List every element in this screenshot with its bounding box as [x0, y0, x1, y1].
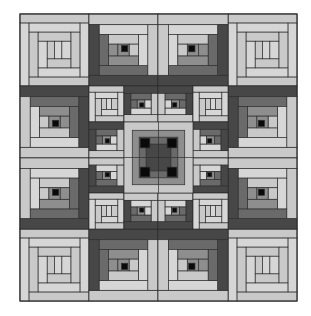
center-square — [122, 46, 128, 52]
log-left — [20, 238, 29, 301]
log-right — [110, 136, 116, 144]
log-bottom — [29, 292, 89, 301]
log-bottom — [248, 128, 278, 138]
log-top — [228, 158, 297, 169]
log-right — [151, 200, 158, 221]
center-patch — [102, 99, 107, 110]
log-left — [89, 25, 99, 76]
log-top — [248, 106, 278, 116]
center-square — [140, 208, 144, 212]
log-left — [30, 178, 39, 209]
log-right — [268, 116, 277, 128]
log-bottom — [206, 217, 222, 223]
log-bottom — [38, 68, 80, 77]
edge-block-right-2 — [228, 158, 297, 229]
log-right — [218, 25, 228, 76]
log-right — [288, 23, 297, 77]
log-left — [109, 259, 118, 271]
log-left — [200, 136, 206, 144]
log-top — [29, 238, 80, 247]
log-right — [214, 136, 220, 144]
medallion-square — [140, 138, 150, 148]
log-top — [246, 247, 279, 256]
log-right — [221, 129, 228, 150]
log-left — [193, 199, 199, 229]
log-bottom — [109, 56, 139, 66]
log-left — [193, 92, 199, 122]
log-bottom — [158, 290, 228, 301]
log-bottom — [228, 218, 297, 229]
log-top — [165, 200, 186, 207]
log-left — [165, 207, 171, 215]
log-right — [216, 206, 222, 217]
log-right — [279, 32, 288, 68]
log-top — [29, 23, 80, 32]
log-bottom — [131, 108, 151, 115]
medallion-square — [140, 167, 150, 177]
inner-small-10 — [124, 193, 158, 229]
log-left — [124, 93, 131, 114]
log-left — [38, 41, 47, 68]
log-left — [193, 129, 200, 150]
quilt-image — [0, 0, 311, 316]
log-top — [99, 25, 147, 35]
corner-block-top-left — [20, 14, 89, 86]
log-bottom — [40, 199, 70, 209]
log-top — [237, 238, 288, 247]
log-left — [131, 100, 137, 108]
center-square — [140, 103, 144, 107]
log-bottom — [246, 68, 288, 77]
log-top — [95, 92, 118, 98]
log-left — [228, 169, 238, 219]
log-bottom — [96, 179, 117, 185]
log-bottom — [95, 223, 124, 229]
quilt-blocks — [20, 14, 297, 301]
log-top — [248, 178, 278, 188]
log-right — [145, 207, 151, 215]
log-bottom — [255, 274, 279, 283]
log-right — [214, 172, 220, 180]
log-bottom — [206, 110, 222, 116]
log-left — [95, 206, 101, 223]
log-top — [95, 199, 118, 205]
center-patch — [206, 99, 211, 110]
log-left — [158, 25, 168, 76]
log-right — [138, 34, 147, 65]
log-left — [158, 93, 165, 114]
inner-small-11 — [158, 193, 193, 229]
log-top — [165, 93, 186, 100]
log-top — [89, 229, 158, 240]
inner-small-4 — [193, 86, 228, 122]
log-bottom — [38, 283, 80, 292]
log-right — [179, 100, 185, 108]
log-right — [62, 41, 71, 59]
center-patch — [211, 206, 216, 217]
log-bottom — [29, 77, 89, 86]
log-right — [221, 165, 228, 186]
center-patch — [255, 41, 262, 59]
log-top — [238, 97, 286, 107]
inner-small-12 — [193, 193, 228, 229]
edge-block-bottom-1 — [89, 229, 158, 301]
log-bottom — [30, 138, 78, 148]
center-patch — [107, 99, 112, 110]
edge-block-left-1 — [20, 86, 89, 158]
log-bottom — [158, 222, 193, 229]
log-top — [99, 240, 147, 250]
log-top — [158, 86, 193, 93]
log-left — [168, 249, 177, 280]
log-right — [117, 129, 124, 150]
log-right — [186, 93, 193, 114]
log-top — [168, 25, 217, 35]
medallion-square — [167, 167, 177, 177]
corner-block-bottom-right — [228, 229, 297, 301]
center-square — [105, 173, 109, 177]
log-bottom — [109, 271, 139, 281]
log-right — [69, 178, 78, 209]
center-square — [105, 139, 109, 143]
medallion-square — [167, 138, 177, 148]
edge-block-top-1 — [89, 14, 158, 86]
log-bottom — [178, 271, 208, 281]
log-top — [193, 193, 228, 199]
log-right — [112, 206, 118, 217]
